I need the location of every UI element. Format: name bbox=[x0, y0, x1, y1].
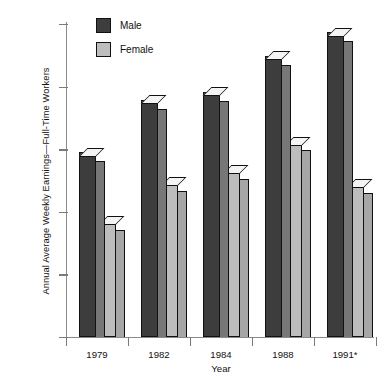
x-axis-line bbox=[66, 337, 374, 338]
x-tick-3 bbox=[252, 337, 253, 346]
y-axis-line bbox=[66, 22, 67, 338]
x-tick-label-1984: 1984 bbox=[186, 349, 256, 360]
bar-male-1982 bbox=[141, 100, 158, 337]
bar-male-1979 bbox=[79, 152, 96, 337]
bar-side bbox=[240, 179, 249, 337]
bar-male-1984 bbox=[203, 92, 220, 337]
bar-chart: Annual Average Weekly Earnings—Full-Time… bbox=[0, 0, 384, 376]
bar-top-face bbox=[265, 51, 291, 60]
bar-male-1991 bbox=[327, 32, 344, 337]
bar-front bbox=[203, 92, 220, 337]
x-tick-2 bbox=[190, 337, 191, 346]
y-tick-2 bbox=[59, 212, 68, 213]
y-tick-3 bbox=[59, 149, 68, 150]
bar-top-face bbox=[203, 87, 229, 96]
legend: Male Female bbox=[96, 18, 153, 66]
y-tick-5 bbox=[59, 24, 68, 25]
bar-top-face bbox=[141, 95, 167, 104]
x-tick-label-1979: 1979 bbox=[62, 349, 132, 360]
x-tick-1 bbox=[128, 337, 129, 346]
bar-side bbox=[282, 65, 291, 337]
legend-label-female: Female bbox=[120, 44, 153, 55]
y-tick-4 bbox=[59, 87, 68, 88]
bar-top-face bbox=[327, 28, 353, 37]
x-tick-label-1991: 1991* bbox=[310, 349, 380, 360]
legend-swatch-female-icon bbox=[96, 42, 111, 57]
bar-side bbox=[158, 109, 167, 337]
bar-male-1988 bbox=[265, 56, 282, 337]
x-tick-0 bbox=[66, 337, 67, 346]
bar-front bbox=[327, 32, 344, 337]
bar-front bbox=[265, 56, 282, 337]
plot-area: 0$100$200$300$400$500 63%65.4%68%70.2%71… bbox=[66, 22, 376, 338]
bar-side bbox=[302, 150, 311, 337]
bar-front bbox=[141, 100, 158, 337]
x-tick-label-1982: 1982 bbox=[124, 349, 194, 360]
legend-item-female: Female bbox=[96, 42, 153, 57]
bar-side bbox=[116, 230, 125, 337]
bar-front bbox=[79, 152, 96, 337]
x-tick-label-1988: 1988 bbox=[248, 349, 318, 360]
x-tick-4 bbox=[314, 337, 315, 346]
legend-swatch-male-icon bbox=[96, 18, 111, 33]
bar-side bbox=[96, 161, 105, 337]
bar-side bbox=[178, 191, 187, 337]
bar-top-face bbox=[79, 148, 105, 157]
bar-side bbox=[364, 193, 373, 337]
legend-item-male: Male bbox=[96, 18, 153, 33]
bar-side bbox=[344, 41, 353, 337]
y-axis-title: Annual Average Weekly Earnings—Full-Time… bbox=[41, 31, 51, 331]
x-tick-5 bbox=[376, 337, 377, 346]
legend-label-male: Male bbox=[120, 20, 142, 31]
footnote bbox=[8, 368, 348, 376]
y-tick-1 bbox=[59, 274, 68, 275]
bar-side bbox=[220, 101, 229, 337]
